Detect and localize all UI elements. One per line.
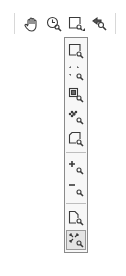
zoom-object-item[interactable]	[66, 129, 86, 149]
zoom-out-item[interactable]	[66, 179, 86, 199]
object-zoom-icon	[68, 131, 84, 147]
rectangle-zoom-icon	[68, 16, 86, 32]
zoom-rectangle-button[interactable]	[67, 14, 87, 34]
zoom-scale-item[interactable]	[66, 85, 86, 105]
scale-zoom-icon	[68, 87, 84, 103]
pan-button[interactable]	[21, 14, 41, 34]
zoom-history-button[interactable]	[44, 14, 64, 34]
separator	[66, 152, 86, 153]
separator	[66, 203, 86, 204]
zoom-all-item[interactable]	[66, 208, 86, 228]
hand-icon	[23, 16, 39, 32]
zoom-dynamic-item[interactable]	[66, 63, 86, 83]
zoom-out-icon	[68, 181, 84, 197]
window-zoom-icon	[68, 43, 84, 59]
back-zoom-icon	[92, 16, 108, 32]
clock-zoom-icon	[46, 16, 62, 32]
zoom-in-icon	[68, 159, 84, 175]
zoom-previous-button[interactable]	[90, 14, 110, 34]
center-zoom-icon	[68, 109, 84, 125]
zoom-toolbar	[14, 13, 116, 34]
zoom-window-item[interactable]	[66, 41, 86, 61]
extents-zoom-icon	[68, 232, 84, 248]
zoom-dropdown-menu	[64, 37, 88, 253]
zoom-extents-item[interactable]	[66, 230, 86, 250]
zoom-center-item[interactable]	[66, 107, 86, 127]
page-zoom-icon	[68, 210, 84, 226]
dotted-zoom-icon	[68, 65, 84, 81]
zoom-in-item[interactable]	[66, 157, 86, 177]
